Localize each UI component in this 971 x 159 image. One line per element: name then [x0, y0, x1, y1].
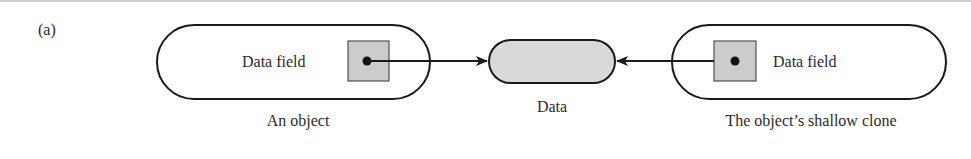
data-shape — [489, 40, 615, 83]
clone-reference-dot-icon — [731, 57, 740, 66]
panel-label: (a) — [38, 21, 56, 39]
data-node: Data — [489, 40, 615, 115]
clone-field-label: Data field — [773, 53, 837, 70]
original-object: Data field An object — [157, 25, 430, 130]
data-caption: Data — [537, 98, 567, 115]
clone-caption: The object’s shallow clone — [725, 112, 896, 130]
original-caption: An object — [267, 112, 330, 130]
clone-object: Data field The object’s shallow clone — [672, 25, 946, 130]
shallow-clone-diagram: (a) Data field An object Data Data field… — [0, 0, 971, 159]
original-field-label: Data field — [242, 53, 306, 70]
